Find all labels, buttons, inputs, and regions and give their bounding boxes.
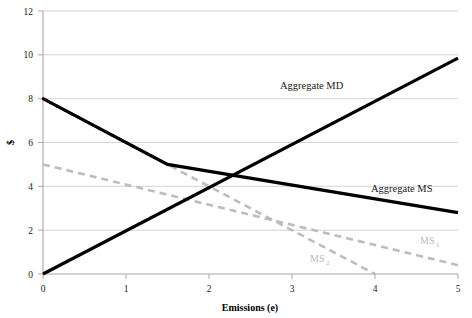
series-label-aggregate-md: Aggregate MD bbox=[280, 80, 344, 91]
y-tick-label-4: 4 bbox=[28, 182, 33, 192]
y-axis-title: $ bbox=[5, 140, 16, 145]
x-axis-title: Emissions (e) bbox=[222, 302, 278, 314]
y-tick-label-6: 6 bbox=[28, 138, 33, 148]
series-label-ms1-subscript: 1 bbox=[436, 241, 440, 249]
y-tick-label-0: 0 bbox=[28, 270, 33, 280]
plot-background bbox=[0, 0, 472, 318]
x-tick-label-4: 4 bbox=[373, 284, 378, 294]
series-label-ms2: MS bbox=[310, 253, 324, 264]
x-tick-label-0: 0 bbox=[41, 284, 46, 294]
x-tick-label-2: 2 bbox=[207, 284, 212, 294]
series-label-ms2-subscript: 2 bbox=[326, 259, 330, 267]
x-tick-label-1: 1 bbox=[124, 284, 129, 294]
x-tick-label-5: 5 bbox=[456, 284, 461, 294]
series-label-ms1: MS bbox=[420, 235, 434, 246]
series-label-aggregate-ms: Aggregate MS bbox=[371, 183, 433, 194]
chart-figure: Figure 3 Aggregate Marginal Damage and M… bbox=[0, 0, 472, 318]
x-tick-label-3: 3 bbox=[290, 284, 295, 294]
chart-plot: 12 10 8 6 4 2 0 0 1 2 3 4 5 $ Emissions … bbox=[0, 0, 472, 318]
y-tick-label-10: 10 bbox=[24, 50, 34, 60]
y-tick-label-8: 8 bbox=[28, 94, 33, 104]
y-tick-label-12: 12 bbox=[24, 7, 34, 17]
y-tick-label-2: 2 bbox=[28, 226, 33, 236]
